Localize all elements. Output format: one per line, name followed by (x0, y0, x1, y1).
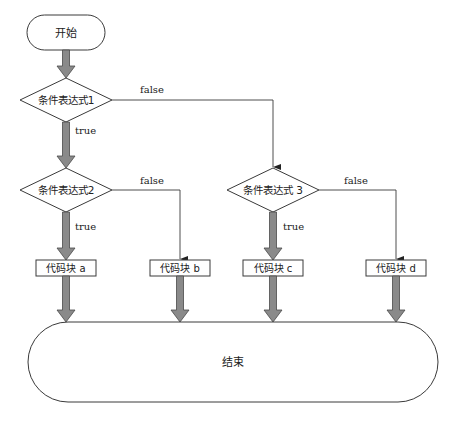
edge-cond1-false: false (112, 84, 273, 167)
condition-1-label: 条件表达式1 (38, 94, 95, 106)
block-b-label: 代码块 b (160, 263, 200, 274)
block-c-label: 代码块 c (254, 263, 293, 274)
arrow-start-to-cond1 (57, 50, 75, 78)
arrow-block-a-to-end (57, 276, 75, 322)
flowchart-canvas: 开始 条件表达式1 false true 条件表达式2 false true 条… (0, 0, 455, 422)
condition-1-node: 条件表达式1 (20, 78, 112, 122)
edge-label-false: false (140, 84, 164, 95)
edge-label-true: true (75, 221, 96, 232)
edge-label-false: false (140, 175, 164, 186)
arrow-block-b-to-end (171, 276, 189, 322)
block-a-label: 代码块 a (46, 263, 85, 274)
arrow-cond1-to-cond2: true (57, 122, 96, 168)
arrow-block-c-to-end (264, 276, 282, 322)
start-label: 开始 (55, 26, 77, 40)
condition-3-node: 条件表达式 3 (227, 168, 319, 212)
condition-2-label: 条件表达式2 (38, 184, 95, 196)
arrow-cond2-to-block-a: true (57, 212, 96, 260)
arrow-block-d-to-end (387, 276, 405, 322)
block-b-node: 代码块 b (150, 260, 210, 276)
block-c-node: 代码块 c (243, 260, 303, 276)
condition-3-label: 条件表达式 3 (243, 184, 303, 196)
edge-cond2-false: false (112, 175, 180, 259)
block-d-node: 代码块 d (366, 260, 426, 276)
condition-2-node: 条件表达式2 (20, 168, 112, 212)
edge-label-false: false (344, 175, 368, 186)
block-a-node: 代码块 a (36, 260, 96, 276)
block-d-label: 代码块 d (376, 263, 416, 274)
edge-label-true: true (75, 125, 96, 136)
edge-cond3-false: false (319, 175, 396, 259)
start-node: 开始 (27, 15, 105, 50)
arrow-cond3-to-block-c: true (264, 212, 304, 260)
edge-label-true: true (283, 221, 304, 232)
end-label: 结束 (222, 356, 244, 369)
end-node: 结束 (28, 322, 438, 402)
